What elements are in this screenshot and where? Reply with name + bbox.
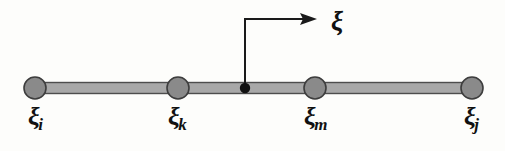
node-label-j: ξj xyxy=(464,104,478,133)
sample-point-dot xyxy=(240,83,250,93)
node-label-i: ξi xyxy=(28,104,42,133)
node-label-k: ξk xyxy=(168,104,186,133)
arrow-leader-line xyxy=(245,19,303,88)
node-circle-i xyxy=(24,77,46,99)
xi-subscript-m: m xyxy=(314,115,327,134)
element-bar xyxy=(35,83,472,94)
element-diagram-svg xyxy=(0,0,505,151)
node-circle-k xyxy=(167,77,189,99)
xi-subscript-k: k xyxy=(178,115,186,134)
axis-label-xi: ξ xyxy=(331,8,343,35)
node-circle-m xyxy=(304,77,326,99)
xi-subscript-j: j xyxy=(474,115,478,134)
node-label-m: ξm xyxy=(304,104,327,133)
node-circle-j xyxy=(461,77,483,99)
xi-subscript-i: i xyxy=(38,115,42,134)
figure-container: ξi ξk ξm ξj ξ xyxy=(0,0,505,151)
